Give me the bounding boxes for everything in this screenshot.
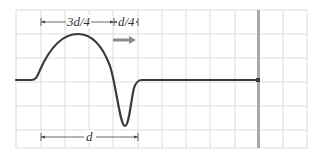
- wave-pulse-diagram: 3d/4 d/4 d: [0, 0, 318, 155]
- total-width-label: d: [85, 130, 94, 143]
- diagram-canvas: [0, 0, 318, 155]
- wall-attachment-point: [256, 78, 260, 82]
- trough-width-label: d/4: [117, 15, 136, 28]
- wave-pulse-string: [16, 34, 258, 126]
- direction-arrow-icon: [113, 36, 136, 44]
- crest-width-label: 3d/4: [66, 15, 91, 28]
